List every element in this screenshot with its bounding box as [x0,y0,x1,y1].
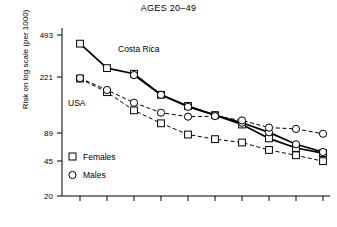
data-point-marker-circle [184,113,191,120]
data-point-marker-square [212,136,219,143]
legend-label-females: Females [83,152,116,162]
y-axis-ticks [57,35,62,196]
y-tick-label-20: 20 [44,192,53,201]
data-point-marker-circle [292,125,299,132]
chart-figure: AGES 20–49 Risk on log scale (per 1000) … [0,0,337,227]
data-point-marker-square [185,131,192,138]
series-line [80,78,323,134]
data-series-layer [76,40,326,164]
data-point-marker-circle [238,117,245,124]
data-point-marker-circle [157,91,164,98]
legend-label-males: Males [83,170,106,180]
data-point-marker-circle [292,141,299,148]
data-point-marker-square [104,65,111,72]
y-tick-label-493: 493 [40,31,54,40]
annotation-usa: USA [68,98,86,108]
data-point-marker-square [293,152,300,159]
y-tick-label-89: 89 [44,129,53,138]
legend: Females Males [69,152,116,180]
data-point-marker-square [239,139,246,146]
legend-marker-circle-icon [69,171,76,178]
x-axis-ticks [80,196,323,201]
data-point-marker-square [158,120,165,127]
annotation-costa-rica: Costa Rica [118,44,160,54]
y-tick-label-45: 45 [44,157,53,166]
data-point-marker-circle [265,124,272,131]
data-point-marker-circle [184,103,191,110]
series-costa-rica-females [77,40,327,156]
data-point-marker-circle [76,75,83,82]
data-point-marker-square [320,158,327,165]
series-usa-males [76,75,326,138]
y-tick-label-221: 221 [40,73,54,82]
data-point-marker-square [77,40,84,47]
plot-area: 493 221 89 45 20 Costa Rica USA Females [0,0,337,227]
legend-marker-square-icon [69,153,76,160]
data-point-marker-circle [319,148,326,155]
data-point-marker-square [131,107,138,114]
data-point-marker-circle [103,86,110,93]
data-point-marker-square [266,147,273,154]
data-point-marker-circle [130,99,137,106]
data-point-marker-circle [157,109,164,116]
data-point-marker-circle [211,113,218,120]
series-line [80,79,323,162]
data-point-marker-circle [130,71,137,78]
data-point-marker-circle [319,130,326,137]
